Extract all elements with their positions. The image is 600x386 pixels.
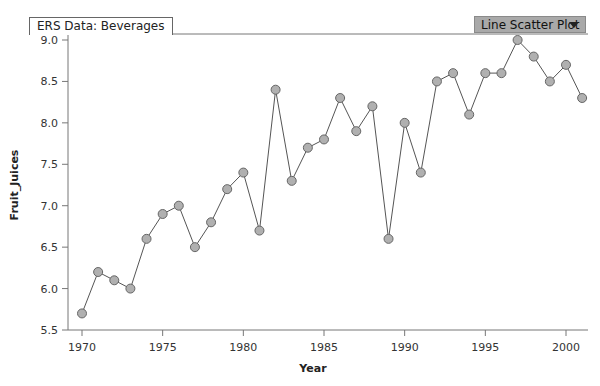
y-tick-label: 7.0 xyxy=(41,200,59,213)
data-point[interactable] xyxy=(320,135,329,144)
y-tick-label: 6.0 xyxy=(41,283,59,296)
data-point[interactable] xyxy=(432,77,441,86)
x-tick-label: 1995 xyxy=(471,341,499,354)
x-tick-label: 1980 xyxy=(229,341,257,354)
data-point[interactable] xyxy=(400,118,409,127)
data-point[interactable] xyxy=(368,102,377,111)
data-point[interactable] xyxy=(416,168,425,177)
data-point[interactable] xyxy=(529,52,538,61)
y-tick-label: 6.5 xyxy=(41,241,59,254)
y-tick-label: 8.5 xyxy=(41,75,59,88)
x-tick-label: 1990 xyxy=(391,341,419,354)
data-point[interactable] xyxy=(223,185,232,194)
data-point[interactable] xyxy=(303,143,312,152)
y-tick-label: 8.0 xyxy=(41,117,59,130)
x-tick-label: 1970 xyxy=(68,341,96,354)
x-tick-label: 1985 xyxy=(310,341,338,354)
series-line xyxy=(82,40,582,313)
data-point[interactable] xyxy=(110,276,119,285)
data-point[interactable] xyxy=(562,60,571,69)
x-tick-label: 1975 xyxy=(149,341,177,354)
data-point[interactable] xyxy=(142,234,151,243)
data-point[interactable] xyxy=(207,218,216,227)
data-point[interactable] xyxy=(578,94,587,103)
data-point[interactable] xyxy=(94,268,103,277)
data-point[interactable] xyxy=(465,110,474,119)
data-point[interactable] xyxy=(287,176,296,185)
data-point[interactable] xyxy=(271,85,280,94)
data-point[interactable] xyxy=(158,210,167,219)
data-point[interactable] xyxy=(255,226,264,235)
data-point[interactable] xyxy=(190,243,199,252)
data-point[interactable] xyxy=(126,284,135,293)
data-point[interactable] xyxy=(239,168,248,177)
data-point[interactable] xyxy=(174,201,183,210)
data-point[interactable] xyxy=(513,36,522,45)
x-tick-label: 2000 xyxy=(552,341,580,354)
data-point[interactable] xyxy=(336,94,345,103)
data-point[interactable] xyxy=(384,234,393,243)
plot-type-label: Line Scatter Plot xyxy=(481,18,580,32)
data-point[interactable] xyxy=(352,127,361,136)
data-point[interactable] xyxy=(481,69,490,78)
data-point[interactable] xyxy=(545,77,554,86)
y-tick-label: 7.5 xyxy=(41,158,59,171)
y-tick-label: 5.5 xyxy=(41,324,59,337)
data-point[interactable] xyxy=(449,69,458,78)
triangle-down-icon xyxy=(569,22,579,28)
plot-type-dropdown[interactable]: Line Scatter Plot xyxy=(474,16,586,33)
y-axis-title: Fruit_Juices xyxy=(8,149,21,220)
y-tick-label: 9.0 xyxy=(41,34,59,47)
x-axis-title: Year xyxy=(298,362,327,375)
dataset-title-tab: ERS Data: Beverages xyxy=(29,17,173,35)
data-point[interactable] xyxy=(78,309,87,318)
data-point[interactable] xyxy=(497,69,506,78)
line-scatter-chart: 5.56.06.57.07.58.08.59.0 197019751980198… xyxy=(0,0,600,386)
